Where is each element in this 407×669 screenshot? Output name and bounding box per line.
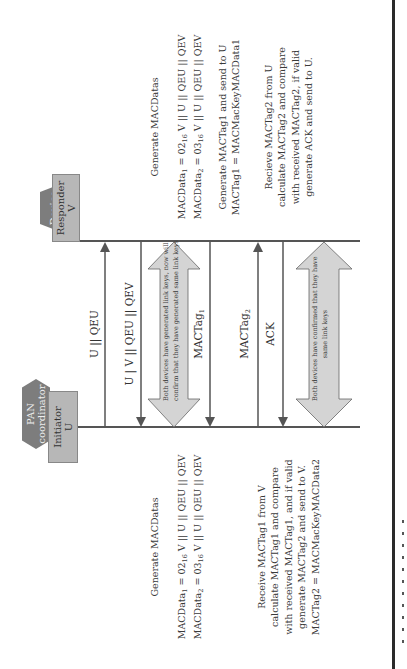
block-arrow-2-text: Both devices have confirmed that they ha… bbox=[311, 267, 331, 401]
block-arrow-1-text: Both devices have generated link keys, n… bbox=[162, 267, 182, 401]
message-label-mactag2: MACTag2 bbox=[238, 299, 252, 369]
page-border-line bbox=[392, 0, 395, 669]
responder-receive-mactag2: Recieve MACTag2 from U calculate MACTag2… bbox=[262, 17, 316, 237]
figure-caption-fragment bbox=[400, 520, 406, 660]
sequence-diagram: Device Responder V PAN coordinator Initi… bbox=[0, 0, 392, 669]
message-label-u-v-qeu-qev: U | V || QEU || QEV bbox=[123, 279, 135, 389]
message-label-mactag1: MACTag1 bbox=[192, 299, 206, 369]
initiator-receive-mactag1: Receive MACTag1 from V calculate MACTag1… bbox=[255, 437, 322, 657]
responder-generate-mactag1: Generate MACTag1 and send to U MACTag1 =… bbox=[216, 17, 243, 237]
message-label-u-qeu: U || QEU bbox=[88, 299, 100, 369]
responder-generate-macdatas: Generate MACDatas MACData1 = 0216 V || U… bbox=[148, 17, 206, 237]
message-label-ack: ACK bbox=[264, 309, 276, 359]
initiator-generate-macdatas: Generate MACDatas MACData1 = 0216 V || U… bbox=[148, 437, 206, 657]
